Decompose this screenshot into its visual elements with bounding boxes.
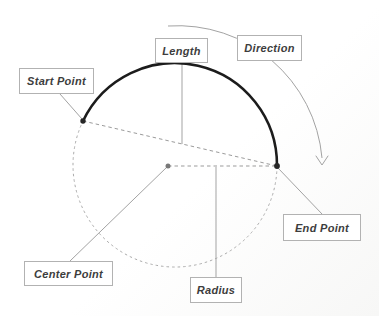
- arc-diagram: Length Direction Start Point End Point C…: [0, 0, 379, 316]
- dashed-circle-arc: [73, 121, 277, 267]
- chord-dashed-line: [83, 121, 277, 166]
- center-point-dot: [166, 164, 171, 169]
- direction-label: Direction: [237, 35, 302, 61]
- start-point-dot: [80, 118, 85, 123]
- end-point-dot: [274, 163, 280, 169]
- center-point-leader-line: [70, 167, 167, 261]
- start-point-leader-line: [60, 94, 82, 119]
- arc-entity: [83, 63, 277, 166]
- length-label: Length: [155, 38, 208, 63]
- radius-label: Radius: [190, 277, 242, 303]
- start-point-label: Start Point: [19, 68, 94, 94]
- center-point-label: Center Point: [24, 261, 113, 286]
- end-point-label: End Point: [283, 214, 361, 241]
- end-point-leader-line: [278, 168, 322, 214]
